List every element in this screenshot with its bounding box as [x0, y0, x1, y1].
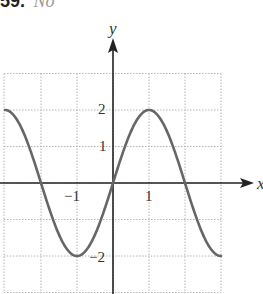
y-tick-2: 2 [98, 101, 106, 117]
x-tick-1: 1 [145, 188, 153, 204]
y-axis-label: y [107, 19, 117, 38]
function-graph: y x 2 1 −2 −1 1 [0, 0, 263, 294]
y-tick-neg2: −2 [89, 249, 105, 265]
x-axis-label: x [256, 174, 263, 193]
y-tick-1: 1 [99, 138, 107, 154]
x-tick-neg1: −1 [64, 188, 80, 204]
